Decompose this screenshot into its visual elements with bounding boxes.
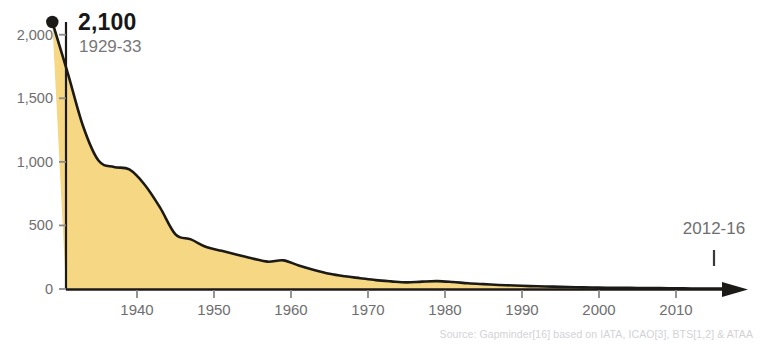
aviation-fatalities-area-chart: 05001,0001,5002,000 19401950196019701980… xyxy=(0,0,765,349)
x-axis-tick-label: 2010 xyxy=(659,301,692,318)
chart-plot-area: 05001,0001,5002,000 19401950196019701980… xyxy=(0,0,765,349)
x-axis-tick-label: 1990 xyxy=(505,301,538,318)
area-fill xyxy=(52,22,722,289)
x-axis-tick-label: 1980 xyxy=(428,301,461,318)
x-axis-tick-label: 1970 xyxy=(351,301,384,318)
x-axis-arrowhead xyxy=(722,282,748,297)
source-citation: Source: Gapminder[16] based on IATA, ICA… xyxy=(440,328,753,340)
y-axis-tick-label: 2,000 xyxy=(17,27,53,43)
peak-data-point-marker xyxy=(46,16,58,28)
peak-value-label: 2,100 xyxy=(78,9,137,35)
y-axis-tick-label: 1,500 xyxy=(17,90,53,106)
y-axis-tick-label: 0 xyxy=(45,281,53,297)
x-axis-tick-labels: 19401950196019701980199020002010 xyxy=(120,301,692,318)
y-axis-tick-label: 500 xyxy=(29,217,53,233)
x-axis-ticks xyxy=(137,290,676,298)
x-axis-tick-label: 2000 xyxy=(582,301,615,318)
peak-period-label: 1929-33 xyxy=(79,37,141,56)
x-axis-tick-label: 1950 xyxy=(197,301,230,318)
y-axis-tick-label: 1,000 xyxy=(17,154,53,170)
y-axis-tick-labels: 05001,0001,5002,000 xyxy=(17,27,53,297)
x-axis-tick-label: 1940 xyxy=(120,301,153,318)
end-period-label: 2012-16 xyxy=(683,219,745,238)
x-axis-tick-label: 1960 xyxy=(274,301,307,318)
